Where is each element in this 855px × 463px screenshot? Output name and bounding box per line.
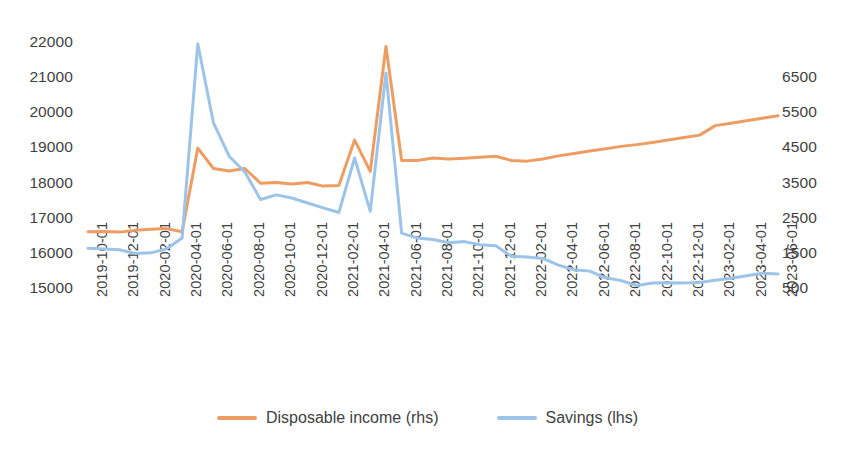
chart-container: 1500016000170001800019000200002100022000… (0, 0, 855, 463)
legend-swatch-icon (497, 416, 537, 420)
legend-item[interactable]: Savings (lhs) (497, 409, 638, 427)
series-line (88, 44, 778, 286)
legend-item[interactable]: Disposable income (rhs) (217, 409, 439, 427)
legend-label: Disposable income (rhs) (266, 409, 439, 427)
chart-lines (0, 0, 855, 463)
chart-legend: Disposable income (rhs)Savings (lhs) (0, 409, 855, 427)
legend-swatch-icon (217, 416, 257, 420)
plot-area (0, 0, 855, 463)
legend-label: Savings (lhs) (546, 409, 638, 427)
